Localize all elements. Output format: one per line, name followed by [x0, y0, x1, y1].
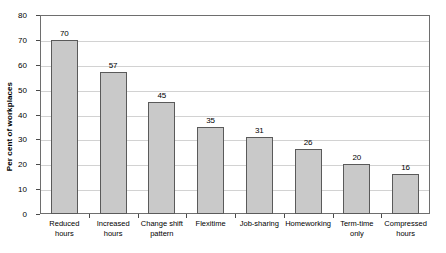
- y-tick-label: 0: [5, 210, 27, 219]
- bar-value-label: 70: [60, 29, 69, 38]
- bar-value-label: 26: [304, 138, 313, 147]
- y-tick-mark: [36, 65, 40, 66]
- x-tick-mark: [186, 214, 187, 218]
- plot-area: [40, 15, 430, 214]
- x-tick-label: Change shiftpattern: [141, 219, 183, 238]
- bar-value-label: 20: [352, 153, 361, 162]
- bar-value-label: 31: [255, 126, 264, 135]
- y-tick-label: 70: [5, 35, 27, 44]
- x-tick-mark: [333, 214, 334, 218]
- y-tick-label: 10: [5, 185, 27, 194]
- x-tick-label: Compressedhours: [384, 219, 427, 238]
- y-tick-label: 30: [5, 135, 27, 144]
- x-tick-mark: [89, 214, 90, 218]
- y-tick-label: 60: [5, 60, 27, 69]
- x-tick-mark: [235, 214, 236, 218]
- y-tick-label: 20: [5, 160, 27, 169]
- bar-value-label: 45: [157, 91, 166, 100]
- x-tick-label: Term-timeonly: [340, 219, 373, 238]
- gridline: [41, 41, 429, 42]
- bar-value-label: 57: [109, 61, 118, 70]
- x-tick-label: Reducedhours: [49, 219, 79, 238]
- bar: [295, 149, 322, 214]
- x-tick-label: Homeworking: [285, 219, 331, 229]
- x-tick-mark: [381, 214, 382, 218]
- y-tick-label: 50: [5, 85, 27, 94]
- x-tick-mark: [284, 214, 285, 218]
- bar: [197, 127, 224, 214]
- x-tick-mark: [138, 214, 139, 218]
- x-tick-label: Flexitime: [196, 219, 226, 229]
- bar-value-label: 35: [206, 116, 215, 125]
- y-tick-mark: [36, 15, 40, 16]
- bar-value-label: 16: [401, 163, 410, 172]
- y-tick-mark: [36, 164, 40, 165]
- y-tick-mark: [36, 214, 40, 215]
- bar: [100, 72, 127, 214]
- y-tick-mark: [36, 40, 40, 41]
- y-tick-mark: [36, 189, 40, 190]
- bar: [343, 164, 370, 214]
- bar: [148, 102, 175, 214]
- y-tick-mark: [36, 139, 40, 140]
- x-tick-label: Increasedhours: [97, 219, 130, 238]
- x-tick-label: Job-sharing: [240, 219, 279, 229]
- y-tick-label: 80: [5, 11, 27, 20]
- gridline: [41, 66, 429, 67]
- y-tick-mark: [36, 90, 40, 91]
- bar: [392, 174, 419, 214]
- bar-chart: Per cent of workplaces 01020304050607080…: [0, 0, 446, 253]
- bar: [51, 40, 78, 214]
- bar: [246, 137, 273, 214]
- y-tick-mark: [36, 115, 40, 116]
- y-tick-label: 40: [5, 110, 27, 119]
